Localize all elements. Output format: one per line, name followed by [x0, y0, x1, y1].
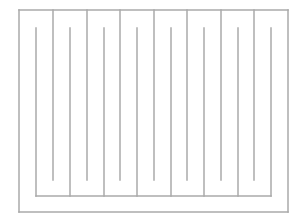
top-hanging-lines	[53, 10, 254, 180]
serpentine-maze-diagram	[0, 0, 303, 222]
